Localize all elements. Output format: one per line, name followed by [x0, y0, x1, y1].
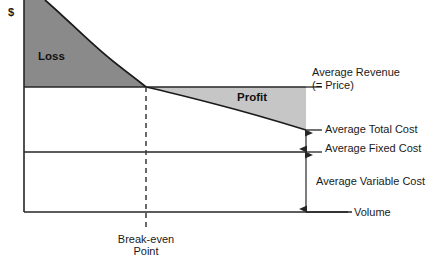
loss-region-label: Loss [38, 50, 65, 62]
average-variable-cost-label: Average Variable Cost [316, 175, 425, 187]
average-fixed-cost-label: Average Fixed Cost [325, 142, 421, 154]
y-axis-unit-label: $ [8, 6, 14, 18]
volume-axis-label: Volume [354, 206, 391, 218]
loss-region-fill [24, 0, 146, 87]
average-revenue-label-line1: Average Revenue [312, 66, 400, 78]
average-revenue-label-line2: (= Price) [312, 79, 354, 91]
break-even-chart-figure: $ Loss Profit Average Revenue (= Price) … [0, 0, 435, 258]
break-even-chart-svg: $ Loss Profit Average Revenue (= Price) … [0, 0, 435, 258]
average-total-cost-label: Average Total Cost [325, 123, 418, 135]
profit-region-label: Profit [237, 91, 267, 103]
break-even-point-label-line1: Break-even [118, 233, 174, 245]
break-even-point-label-line2: Point [133, 245, 158, 257]
